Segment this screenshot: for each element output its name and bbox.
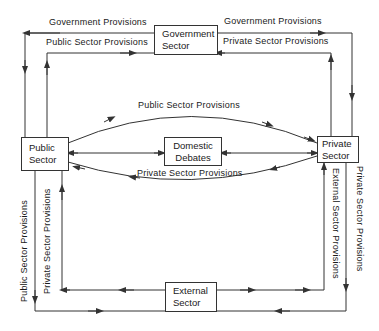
external-sector-line1: External	[173, 285, 208, 297]
edge-label-public-to-gov: Public Sector Provisions	[46, 37, 148, 47]
external-sector-node: External Sector	[165, 282, 217, 312]
external-sector-line2: Sector	[173, 297, 200, 309]
edge-label-gov-to-private: Government Provisions	[224, 16, 322, 26]
domestic-debates-node: Domestic Debates	[164, 137, 222, 166]
public-sector-line2: Sector	[29, 154, 56, 166]
government-sector-line1: Government	[162, 28, 214, 40]
edge-label-external-to-private: External Sector Provisions	[331, 168, 341, 279]
government-sector-node: Government Sector	[154, 25, 218, 55]
domestic-debates-line1: Domestic	[173, 140, 213, 152]
edge-label-private-public-arc: Private Sector Provisions	[137, 168, 243, 178]
edge-label-public-to-external: Public Sector Provisions	[19, 200, 29, 302]
edge-label-private-to-gov: Private Sector Provisions	[223, 36, 329, 46]
government-sector-line2: Sector	[162, 40, 189, 52]
public-sector-node: Public Sector	[21, 137, 69, 171]
private-sector-line1: Private	[322, 138, 352, 150]
private-sector-line2: Sector	[322, 150, 349, 162]
edge-label-private-to-external: Private Sector Provisions	[355, 166, 365, 272]
public-sector-line1: Public	[29, 142, 55, 154]
domestic-debates-line2: Debates	[175, 152, 210, 164]
edge-label-gov-to-public: Government Provisions	[49, 17, 147, 27]
edge-label-public-private-arc: Public Sector Provisions	[138, 100, 240, 110]
private-sector-node: Private Sector	[317, 136, 359, 163]
edge-label-external-to-public: Private Sector Provisions	[42, 188, 52, 294]
